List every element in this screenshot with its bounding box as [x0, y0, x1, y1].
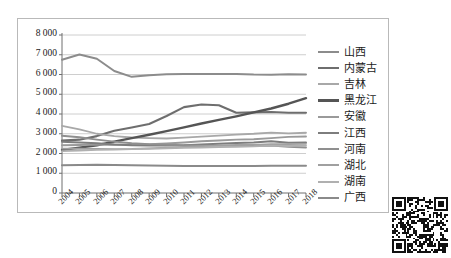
y-tick-label: 4 000 [21, 107, 57, 117]
legend-line-icon [318, 181, 339, 183]
legend-label: 河南 [344, 144, 366, 155]
legend-line-icon [318, 164, 339, 166]
legend-item[interactable]: 内蒙古 [318, 60, 377, 76]
legend-item[interactable]: 山西 [318, 44, 377, 60]
y-tick-label: 6 000 [21, 68, 57, 78]
legend-item[interactable]: 黑龙江 [318, 93, 377, 109]
legend-label: 内蒙古 [344, 63, 377, 74]
legend-item[interactable]: 安徽 [318, 109, 377, 125]
legend-label: 湖北 [344, 160, 366, 171]
legend-item[interactable]: 吉林 [318, 76, 377, 92]
legend-line-icon [318, 67, 339, 69]
legend-label: 江西 [344, 128, 366, 139]
legend-line-icon [318, 83, 339, 85]
legend-item[interactable]: 湖南 [318, 174, 377, 190]
y-tick-label: 8 000 [21, 28, 57, 38]
legend-line-icon [318, 148, 339, 150]
legend-label: 黑龙江 [344, 95, 377, 106]
legend-line-icon [318, 132, 339, 134]
y-tick-label: 3 000 [21, 127, 57, 137]
chart-legend: 山西内蒙古吉林黑龙江安徽江西河南湖北湖南广西 [318, 44, 377, 206]
legend-label: 山西 [344, 47, 366, 58]
legend-label: 广西 [344, 192, 366, 203]
qr-code-icon [392, 197, 448, 253]
legend-item[interactable]: 江西 [318, 125, 377, 141]
legend-line-icon [318, 99, 339, 101]
y-tick-label: 5 000 [21, 87, 57, 97]
legend-label: 湖南 [344, 176, 366, 187]
legend-item[interactable]: 广西 [318, 190, 377, 206]
legend-item[interactable]: 河南 [318, 141, 377, 157]
series-line [62, 165, 306, 166]
legend-label: 安徽 [344, 111, 366, 122]
legend-line-icon [318, 197, 339, 199]
y-tick-label: 7 000 [21, 48, 57, 58]
legend-label: 吉林 [344, 79, 366, 90]
y-tick-label: 2 000 [21, 147, 57, 157]
legend-item[interactable]: 湖北 [318, 157, 377, 173]
legend-line-icon [318, 51, 339, 53]
y-tick-label: 1 000 [21, 166, 57, 176]
y-tick-label: 0 [21, 186, 57, 196]
figure-container: 01 0002 0003 0004 0005 0006 0007 0008 00… [0, 0, 451, 258]
series-line [62, 55, 306, 77]
legend-line-icon [318, 116, 339, 118]
